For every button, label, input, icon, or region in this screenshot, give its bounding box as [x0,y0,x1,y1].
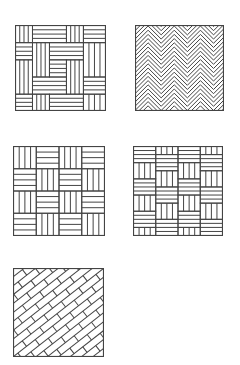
pattern-tile-staggered-basketweave [133,146,223,236]
pattern-tile-basketweave [13,146,105,236]
pattern-tile-diagonal-brick [13,268,104,357]
pattern-tile-herringbone [135,25,224,111]
pattern-tile-basketweave-pinwheel [15,25,106,111]
